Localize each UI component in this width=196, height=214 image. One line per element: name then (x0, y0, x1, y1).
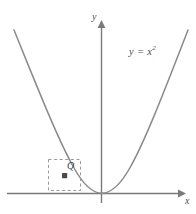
parabola-figure: y x y = x2 Q (0, 0, 196, 214)
figure-canvas (0, 0, 196, 214)
y-axis-arrowhead (98, 20, 106, 28)
curve-equation-label: y = x2 (129, 45, 156, 57)
x-axis (7, 190, 186, 198)
y-axis (98, 20, 106, 203)
y-axis-label: y (92, 12, 96, 22)
point-q-marker (62, 173, 67, 178)
point-q-label: Q (67, 161, 74, 171)
curve-equation-exponent: 2 (152, 44, 156, 52)
curve-equation-lead: y = x (129, 46, 152, 57)
x-axis-label: x (185, 196, 189, 206)
